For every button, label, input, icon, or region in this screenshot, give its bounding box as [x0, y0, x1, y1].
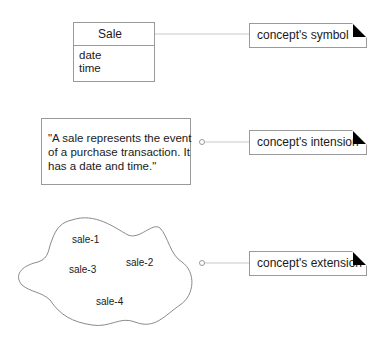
extension-set-blob — [19, 218, 192, 326]
note-concepts-symbol: concept's symbol — [249, 23, 367, 48]
intension-definition-box: "A sale represents the event of a purcha… — [41, 118, 191, 185]
note-label: concept's extension — [257, 252, 362, 275]
intension-definition-text: "A sale represents the event of a purcha… — [48, 131, 194, 173]
instance-label-sale-3: sale-3 — [69, 264, 96, 276]
note-concepts-intension: concept's intension — [249, 130, 367, 155]
attribute-date: date — [79, 49, 101, 62]
class-name: Sale — [98, 27, 122, 41]
attribute-time: time — [79, 62, 101, 75]
extension-anchor-circle-icon — [200, 261, 205, 266]
note-concepts-extension: concept's extension — [249, 251, 367, 276]
attribute-compartment: date time — [79, 49, 101, 75]
note-fold-corner-icon — [352, 23, 367, 38]
note-fold-corner-icon — [352, 130, 367, 145]
sale-class-box: Sale date time — [73, 22, 155, 82]
note-label: concept's symbol — [257, 24, 349, 47]
instance-label-sale-2: sale-2 — [126, 257, 153, 269]
instance-label-sale-1: sale-1 — [72, 234, 99, 246]
instance-label-sale-4: sale-4 — [96, 296, 123, 308]
note-label: concept's intension — [257, 131, 359, 154]
class-name-compartment: Sale — [74, 23, 154, 46]
note-fold-corner-icon — [352, 251, 367, 266]
intension-anchor-circle-icon — [200, 140, 205, 145]
